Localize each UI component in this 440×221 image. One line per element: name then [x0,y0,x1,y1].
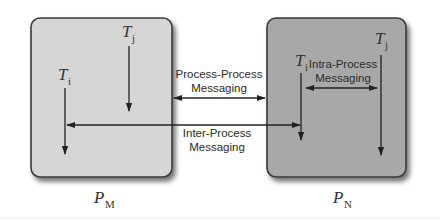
message-label-line2: Messaging [189,141,245,153]
process-label: P [332,188,343,207]
process-label-pn: P N [332,188,352,210]
message-label-line1: Process-Process [176,68,263,80]
process-subscript: N [344,198,352,210]
messaging-diagram: T j T i T i T j Process-Process Messagin… [0,0,440,221]
process-label: P [93,188,104,207]
message-label-line2: Messaging [315,72,371,84]
process-box-pm [31,18,172,177]
thread-subscript: i [68,75,71,87]
process-process-messaging: Process-Process Messaging [174,68,265,98]
thread-subscript: j [131,32,135,44]
message-label-line1: Inter-Process [183,127,252,139]
thread-subscript: i [305,61,308,73]
process-label-pm: P M [93,188,115,210]
thread-subscript: j [384,39,388,51]
message-label-line2: Messaging [191,82,247,94]
process-subscript: M [105,198,115,210]
message-label-line1: Intra-Process [309,58,378,70]
intra-process-messaging: Intra-Process Messaging [306,58,377,88]
